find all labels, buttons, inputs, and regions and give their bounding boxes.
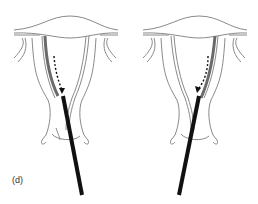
uterus-illustration-right (129, 0, 258, 204)
uterus-illustration-left (0, 0, 129, 204)
figure-label: (d) (12, 175, 23, 185)
highlighted-wall (45, 36, 58, 96)
arrow-head-icon (59, 88, 65, 94)
uterus-diagram-right (129, 0, 258, 204)
probe-instrument (63, 96, 82, 195)
dashed-arrow (54, 56, 62, 90)
uterus-diagram-left: (d) (0, 0, 129, 204)
